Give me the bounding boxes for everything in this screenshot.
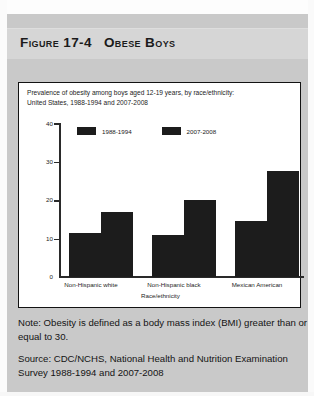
page-margin-left xyxy=(0,0,7,396)
chart-panel: Prevalence of obesity among boys aged 12… xyxy=(18,82,301,308)
bar-nh-white-2007 xyxy=(101,212,133,277)
x-group-label-nh-white: Non-Hispanic white xyxy=(53,281,129,288)
page-margin-right xyxy=(308,0,314,396)
bar-mexican-american-1988 xyxy=(235,221,267,277)
bar-nh-white-1988 xyxy=(69,233,101,277)
bar-mexican-american-2007 xyxy=(267,171,299,277)
x-group-label-mexican-american: Mexican American xyxy=(219,281,295,288)
page-margin-top xyxy=(0,0,314,14)
figure-header-title: Figure 17-4Obese Boys xyxy=(20,35,175,50)
x-axis-title: Race/ethnicity xyxy=(19,292,302,299)
bar-nh-black-1988 xyxy=(152,235,184,277)
figure-source: Source: CDC/NCHS, National Health and Nu… xyxy=(18,352,308,379)
bar-nh-black-2007 xyxy=(184,200,216,277)
y-tick-label-20: 20 xyxy=(33,196,53,203)
page-margin-bottom xyxy=(0,392,314,396)
figure-title-text: Obese Boys xyxy=(104,35,176,50)
x-group-label-nh-black: Non-Hispanic black xyxy=(136,281,212,288)
figure-number: Figure 17-4 xyxy=(20,35,92,50)
figure-note: Note: Obesity is defined as a body mass … xyxy=(18,316,308,343)
y-tick-label-10: 10 xyxy=(33,235,53,242)
plot-area: 1988-1994 2007-2008 40 30 20 10 0 xyxy=(19,83,302,309)
bar-group-container xyxy=(59,123,304,277)
figure-page: Figure 17-4Obese Boys Prevalence of obes… xyxy=(0,0,314,396)
y-tick-label-0: 0 xyxy=(33,273,53,280)
y-axis-tick-labels: 40 30 20 10 0 xyxy=(29,83,53,309)
y-tick-label-40: 40 xyxy=(33,120,53,127)
y-tick-label-30: 30 xyxy=(33,158,53,165)
